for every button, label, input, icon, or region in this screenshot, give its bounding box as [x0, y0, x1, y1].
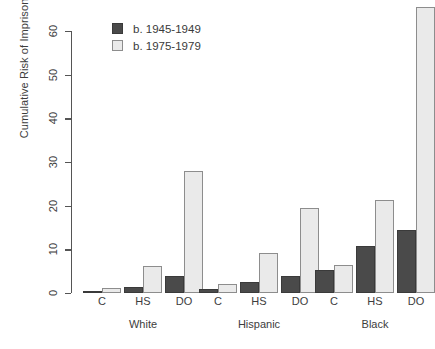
legend-label-1945: b. 1945-1949: [133, 23, 201, 35]
bar-white-do-1945-1949: [165, 276, 184, 293]
category-label-black-do: DO: [408, 295, 425, 307]
category-label-white-c: C: [98, 295, 106, 307]
group-label-black: Black: [362, 318, 389, 330]
legend-swatch-icon-dark: [112, 23, 123, 34]
category-label-white-do: DO: [176, 295, 193, 307]
bar-black-c-1975-1979: [334, 265, 353, 293]
bar-hispanic-hs-1975-1979: [259, 253, 278, 293]
y-tick-label: 30: [44, 154, 62, 170]
bar-black-hs-1945-1949: [356, 246, 375, 293]
bar-black-c-1945-1949: [315, 270, 334, 293]
bar-hispanic-c-1945-1949: [199, 289, 218, 293]
category-label-white-hs: HS: [135, 295, 150, 307]
bar-hispanic-c-1975-1979: [218, 284, 237, 293]
bar-white-hs-1975-1979: [143, 266, 162, 293]
y-tick-label: 10: [44, 241, 62, 257]
legend-swatch-icon-light: [112, 40, 123, 51]
bar-white-do-1975-1979: [184, 171, 203, 293]
category-label-black-hs: HS: [367, 295, 382, 307]
bar-white-hs-1945-1949: [124, 287, 143, 293]
legend-item-1975: b. 1975-1979: [112, 37, 201, 54]
bar-black-hs-1975-1979: [375, 200, 394, 293]
bar-black-do-1945-1949: [397, 230, 416, 293]
bar-white-c-1975-1979: [102, 288, 121, 293]
category-label-hispanic-c: C: [214, 295, 222, 307]
group-label-hispanic: Hispanic: [238, 318, 280, 330]
category-axis-labels: CHSDOCHSDOCHSDO: [71, 295, 401, 313]
bar-hispanic-hs-1945-1949: [240, 282, 259, 293]
y-tick-label: 50: [44, 67, 62, 83]
bar-white-c-1945-1949: [83, 291, 102, 293]
group-label-white: White: [129, 318, 157, 330]
group-axis-labels: WhiteHispanicBlack: [71, 318, 401, 336]
y-tick-label: 40: [44, 110, 62, 126]
bar-hispanic-do-1945-1949: [281, 276, 300, 293]
y-tick-label: 0: [44, 285, 62, 301]
category-label-hispanic-do: DO: [292, 295, 309, 307]
category-label-black-c: C: [330, 295, 338, 307]
legend-label-1975: b. 1975-1979: [133, 40, 201, 52]
legend-item-1945: b. 1945-1949: [112, 20, 201, 37]
category-label-hispanic-hs: HS: [251, 295, 266, 307]
y-tick-label: 20: [44, 198, 62, 214]
y-tick-label: 60: [44, 23, 62, 39]
legend: b. 1945-1949 b. 1975-1979: [112, 20, 201, 54]
bar-black-do-1975-1979: [416, 7, 435, 293]
y-axis-title: Cumulative Risk of Imprisonment: [18, 0, 30, 176]
